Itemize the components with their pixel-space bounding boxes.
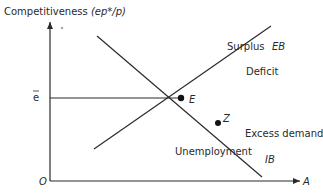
e-bar-label: e (33, 92, 39, 103)
point-z-label: Z (222, 113, 231, 124)
eb-label: EB (272, 41, 285, 52)
deficit-label: Deficit (246, 66, 278, 77)
unemployment-label: Unemployment (175, 146, 252, 157)
point-z (215, 120, 221, 126)
origin-label: O (39, 176, 47, 187)
stray-dot (61, 27, 63, 29)
point-e-label: E (189, 94, 196, 105)
swan-diagram: Competitiveness (ep*/p) e O A Surplus EB… (0, 0, 323, 196)
point-e (178, 95, 184, 101)
ib-label: IB (265, 154, 275, 165)
excess-demand-label: Excess demand (245, 128, 323, 139)
y-axis-label: Competitiveness (ep*/p) (4, 6, 126, 17)
x-axis-label: A (302, 176, 310, 187)
surplus-label: Surplus (227, 41, 264, 52)
